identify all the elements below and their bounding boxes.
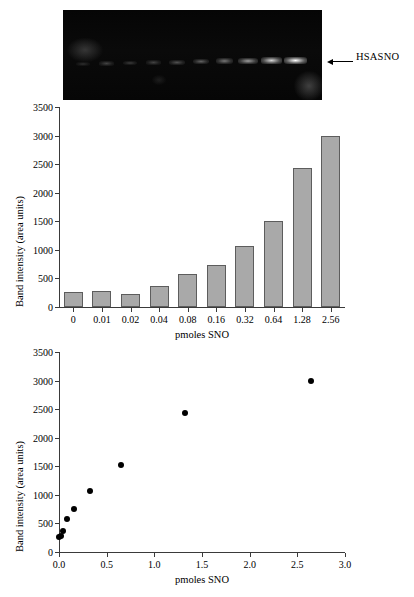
gel-lane-band	[193, 59, 210, 64]
x-axis-tick	[202, 553, 203, 557]
x-axis-tick-label: 2.5	[291, 559, 304, 570]
scatter-point	[71, 506, 77, 512]
x-axis-tick	[250, 553, 251, 557]
bar	[235, 246, 254, 307]
y-axis-tick	[55, 409, 59, 410]
y-axis-tick-label: 0	[21, 547, 53, 558]
x-axis-title: pmoles SNO	[175, 574, 229, 585]
bar	[150, 286, 169, 307]
bar	[207, 265, 226, 307]
y-axis-tick-label: 1500	[21, 216, 53, 227]
y-axis-line	[59, 107, 60, 307]
band-intensity-scatter-chart: 05001000150020002500300035000.00.51.01.5…	[0, 340, 414, 597]
y-axis-tick-label: 1000	[21, 244, 53, 255]
gel-lane-band	[76, 62, 89, 66]
x-axis-tick	[331, 308, 332, 312]
gel-lane-band	[123, 61, 137, 65]
gel-lane-band	[238, 58, 257, 64]
gel-lane-band	[146, 60, 161, 65]
x-axis-tick	[102, 308, 103, 312]
y-axis-line	[59, 352, 60, 552]
x-axis-tick	[154, 553, 155, 557]
bar	[92, 291, 111, 307]
x-axis-tick	[59, 553, 60, 557]
x-axis-tick	[188, 308, 189, 312]
x-axis-tick	[297, 553, 298, 557]
x-axis-tick-label: 0.02	[122, 314, 140, 325]
x-axis-tick	[73, 308, 74, 312]
x-axis-tick	[302, 308, 303, 312]
x-axis-tick-label: 0.04	[150, 314, 168, 325]
x-axis-tick-label: 2.0	[243, 559, 256, 570]
x-axis-tick	[345, 553, 346, 557]
x-axis-tick	[159, 308, 160, 312]
y-axis-tick-label: 1500	[21, 461, 53, 472]
y-axis-tick	[55, 136, 59, 137]
y-axis-tick	[55, 381, 59, 382]
y-axis-tick-label: 0	[21, 302, 53, 313]
x-axis-tick	[131, 308, 132, 312]
y-axis-tick-label: 2500	[21, 404, 53, 415]
x-axis-tick-label: 1.0	[148, 559, 161, 570]
y-axis-tick-label: 1000	[21, 489, 53, 500]
scatter-point	[87, 488, 93, 494]
y-axis-tick-label: 3500	[21, 102, 53, 113]
y-axis-tick	[55, 107, 59, 108]
x-axis-tick-label: 1.28	[293, 314, 311, 325]
scatter-point	[182, 410, 188, 416]
y-axis-tick	[55, 193, 59, 194]
gel-blot-image	[63, 10, 322, 100]
scatter-point	[58, 533, 64, 539]
x-axis-tick	[274, 308, 275, 312]
scatter-point	[118, 462, 124, 468]
y-axis-title: Band intensity (area units)	[14, 196, 25, 307]
scatter-point	[60, 528, 66, 534]
gel-band-label: HSASNO	[356, 51, 399, 62]
x-axis-tick-label: 0.16	[208, 314, 226, 325]
gel-lane-band	[169, 60, 185, 65]
x-axis-tick	[245, 308, 246, 312]
bar	[321, 136, 340, 307]
bar	[178, 274, 197, 307]
bar	[293, 168, 312, 307]
bar	[121, 294, 140, 307]
y-axis-tick	[55, 438, 59, 439]
y-axis-tick-label: 500	[21, 273, 53, 284]
bar	[264, 221, 283, 307]
y-axis-tick	[55, 307, 59, 308]
y-axis-tick	[55, 466, 59, 467]
x-axis-tick-label: 0.08	[179, 314, 197, 325]
gel-lane-band	[261, 57, 283, 64]
x-axis-tick-label: 0.0	[53, 559, 66, 570]
gel-lane-band	[284, 57, 307, 65]
x-axis-tick-label: 0	[71, 314, 76, 325]
gel-lane-band	[216, 58, 234, 64]
x-axis-tick-label: 0.64	[265, 314, 283, 325]
y-axis-tick-label: 500	[21, 518, 53, 529]
x-axis-tick-label: 0.5	[100, 559, 113, 570]
y-axis-tick	[55, 164, 59, 165]
y-axis-tick-label: 3500	[21, 347, 53, 358]
x-axis-tick-label: 0.01	[93, 314, 111, 325]
y-axis-tick-label: 2000	[21, 432, 53, 443]
y-axis-tick	[55, 278, 59, 279]
y-axis-tick	[55, 495, 59, 496]
gel-blot-panel: HSASNO	[0, 0, 414, 108]
scatter-point	[64, 516, 70, 522]
band-intensity-bar-chart: 050010001500200025003000350000.010.020.0…	[0, 100, 414, 340]
bar	[64, 292, 83, 307]
y-axis-tick-label: 2000	[21, 187, 53, 198]
y-axis-tick	[55, 221, 59, 222]
scatter-point	[308, 378, 314, 384]
y-axis-tick	[55, 352, 59, 353]
x-axis-title: pmoles SNO	[175, 329, 229, 340]
y-axis-tick	[55, 250, 59, 251]
y-axis-tick-label: 2500	[21, 159, 53, 170]
x-axis-tick-label: 2.56	[322, 314, 340, 325]
x-axis-tick-label: 0.32	[236, 314, 254, 325]
y-axis-title: Band intensity (area units)	[14, 441, 25, 552]
x-axis-tick	[107, 553, 108, 557]
x-axis-tick	[216, 308, 217, 312]
x-axis-tick-label: 1.5	[196, 559, 209, 570]
left-arrow-icon	[327, 57, 353, 66]
